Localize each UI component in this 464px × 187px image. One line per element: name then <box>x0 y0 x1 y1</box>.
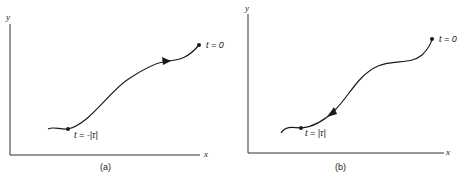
panel-b-trajectory <box>281 39 432 133</box>
panel-a-y-label: y <box>6 12 10 22</box>
panel-a-x-label: x <box>204 149 208 159</box>
panel-b-arrow-icon <box>327 107 337 117</box>
panel-b-end-point <box>430 37 434 41</box>
panel-a-end-label: t = 0 <box>206 40 224 50</box>
panel-a-caption: (a) <box>100 162 111 172</box>
panel-b-end-label: t = 0 <box>439 34 457 44</box>
panel-a-trajectory <box>48 45 199 129</box>
panel-b-y-label: y <box>245 3 249 13</box>
panel-a-start-point <box>66 127 70 131</box>
panel-b-start-point <box>299 126 303 130</box>
panel-a-axes <box>10 24 200 155</box>
panel-a-end-point <box>197 43 201 47</box>
panel-a-start-label: t = -|τ| <box>74 130 98 140</box>
diagram-canvas <box>0 0 464 187</box>
panel-b-caption: (b) <box>335 162 346 172</box>
panel-b-start-label: t = |τ| <box>305 128 326 138</box>
panel-b-axes <box>248 14 444 153</box>
panel-a-arrow-icon <box>162 57 171 65</box>
panel-b-x-label: x <box>446 147 450 157</box>
